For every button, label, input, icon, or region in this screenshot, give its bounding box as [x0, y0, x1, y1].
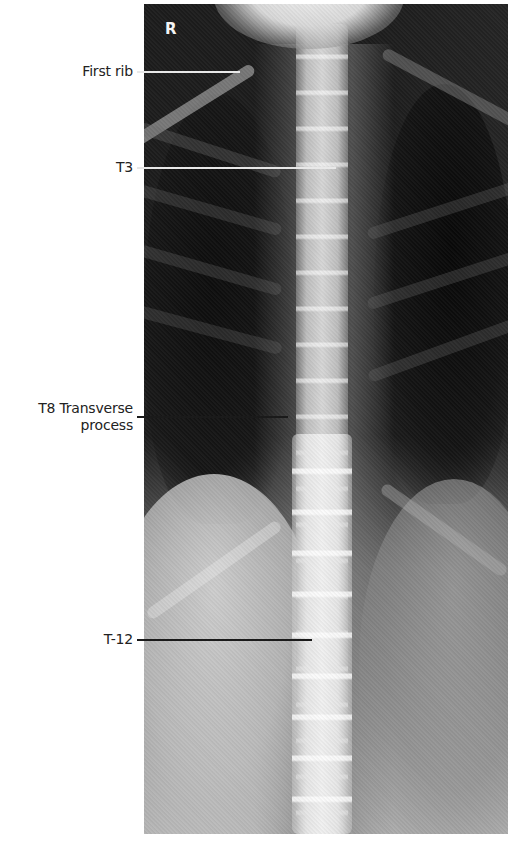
label-line: First rib: [82, 63, 133, 80]
labeled-radiograph-figure: R First rib T3 T8 Transverse process T-1…: [0, 0, 519, 845]
label-t3: T3: [116, 159, 133, 176]
side-marker-r: R: [165, 20, 177, 38]
label-t8-transverse-process: T8 Transverse process: [38, 400, 133, 434]
leader-line-t8: [137, 416, 288, 418]
label-t12: T-12: [104, 631, 133, 648]
label-line: process: [38, 417, 133, 434]
label-first-rib: First rib: [82, 63, 133, 80]
film-grain-overlay: [144, 4, 508, 834]
leader-line-t12: [137, 639, 312, 641]
label-line: T8 Transverse: [38, 400, 133, 417]
leader-line-t3: [137, 167, 336, 169]
leader-line-first-rib: [137, 71, 240, 73]
thoracic-spine-xray-image: R: [144, 4, 508, 834]
label-line: T-12: [104, 631, 133, 648]
label-line: T3: [116, 159, 133, 176]
